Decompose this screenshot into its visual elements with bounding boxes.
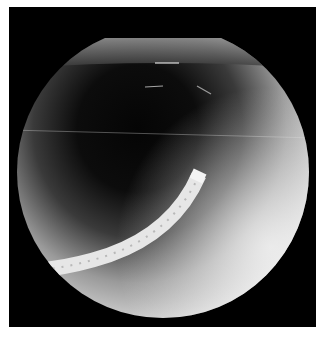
image-frame xyxy=(9,7,316,327)
circular-field xyxy=(9,7,316,327)
fluoroscopy-image xyxy=(9,7,316,327)
